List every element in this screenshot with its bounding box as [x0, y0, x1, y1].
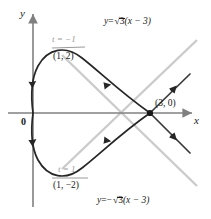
x-axis-label: x — [194, 115, 199, 126]
arrow-loop-upper-left — [28, 81, 36, 89]
upper-asymptote-equation: y=√3(x − 3) — [104, 17, 151, 27]
asymptote-lower-line — [62, 55, 197, 186]
lower-eq-radical: √3 — [112, 196, 123, 206]
axes-group — [8, 14, 192, 207]
radical-overbar-upper — [119, 18, 125, 19]
point-lower-label: (1, −2) — [53, 181, 79, 191]
y-axis-label: y — [20, 8, 25, 19]
asymptote-upper-line — [62, 40, 197, 169]
arrow-lower-branch — [103, 137, 111, 144]
arrow-upper-branch — [103, 82, 111, 89]
t-upper-label: t = −1 — [52, 35, 76, 44]
radical-overbar-lower — [117, 197, 123, 198]
arrow-loop-lower-left — [28, 139, 36, 147]
node-point-marker — [147, 110, 153, 116]
upper-eq-factor: (x − 3) — [125, 16, 151, 26]
figure-canvas — [0, 0, 211, 219]
point-upper-label: (1, 2) — [53, 52, 74, 62]
lower-eq-factor: (x − 3) — [123, 195, 149, 205]
t-upper-underline — [52, 47, 85, 48]
parametric-curve-figure: y x 0 t = −1 (1, 2) t = 1 (1, −2) (3, 0)… — [0, 0, 211, 219]
origin-label: 0 — [21, 117, 26, 127]
upper-eq-radical: √3 — [114, 17, 125, 27]
node-point-label: (3, 0) — [155, 99, 176, 109]
lower-asymptote-equation: y=−√3(x − 3) — [97, 196, 149, 206]
t-lower-label: t = 1 — [58, 165, 76, 174]
